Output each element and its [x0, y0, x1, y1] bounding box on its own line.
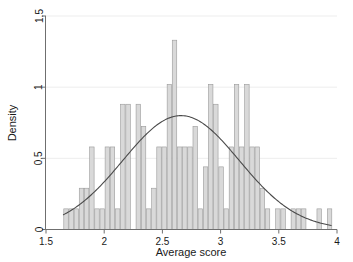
chart-canvas: 00.511.5 1.522.533.54 Density Average sc… [0, 0, 353, 262]
y-axis-label: Density [6, 104, 18, 141]
histogram-bar [193, 126, 197, 229]
histogram-bar [105, 147, 109, 230]
histogram-bar [167, 84, 171, 229]
histogram-bar [260, 188, 264, 229]
histogram-bar [79, 188, 83, 229]
x-tick-label: 1.5 [39, 236, 53, 247]
x-tick-label: 2.5 [155, 236, 169, 247]
histogram-bar [203, 167, 207, 230]
histogram-bar [95, 209, 99, 230]
histogram-bar [317, 209, 321, 230]
y-tick-label: 0 [34, 226, 45, 232]
y-tick-label: 1.5 [34, 9, 45, 23]
histogram-bar [90, 147, 94, 230]
histogram-bar [301, 209, 305, 230]
y-tick-label: 0.5 [34, 151, 45, 165]
x-axis-label: Average score [156, 246, 227, 258]
histogram-bar [245, 84, 249, 229]
histogram-bar [121, 104, 125, 229]
histogram-figure: 00.511.5 1.522.533.54 Density Average sc… [0, 0, 353, 262]
histogram-bar [84, 188, 88, 229]
histogram-bar [146, 209, 150, 230]
histogram-bar [162, 147, 166, 230]
histogram-bar [255, 147, 259, 230]
histogram-bar [69, 209, 73, 230]
histogram-bar [172, 40, 176, 229]
x-tick-label: 4 [334, 236, 340, 247]
histogram-bar [198, 209, 202, 230]
histogram-bar [178, 147, 182, 230]
histogram-bar [183, 147, 187, 230]
histogram-bar [157, 147, 161, 230]
histogram-bar [239, 147, 243, 230]
histogram-bar [276, 209, 280, 230]
histogram-bar [110, 147, 114, 230]
histogram-bar [281, 209, 285, 230]
histogram-bar [219, 167, 223, 230]
y-tick-label: 1 [34, 84, 45, 90]
histogram-bar [208, 84, 212, 229]
histogram-bar [265, 209, 269, 230]
x-tick-label: 3 [218, 236, 224, 247]
histogram-bar [136, 104, 140, 229]
x-tick-label: 3.5 [272, 236, 286, 247]
x-tick-label: 2 [101, 236, 107, 247]
histogram-bar [327, 209, 331, 230]
histogram-bar [126, 104, 130, 229]
histogram-bar [188, 147, 192, 230]
histogram-bar [115, 209, 119, 230]
histogram-bar [296, 209, 300, 230]
histogram-bar [100, 209, 104, 230]
histogram-bar [250, 147, 254, 230]
histogram-bar [229, 147, 233, 230]
histogram-bar [214, 104, 218, 229]
histogram-bar [74, 209, 78, 230]
histogram-bar [141, 126, 145, 229]
histogram-bar [224, 209, 228, 230]
histogram-bar [152, 188, 156, 229]
